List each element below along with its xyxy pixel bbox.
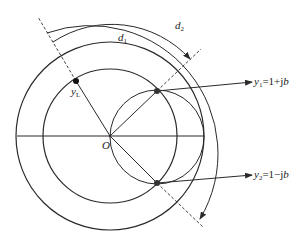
label-y2: y2=1−jb <box>254 169 289 182</box>
label-origin: O <box>102 140 110 151</box>
radius-to-y1 <box>110 91 157 136</box>
point-yL <box>73 78 79 84</box>
arrow-y1 <box>157 82 252 91</box>
unit-conductance-circle <box>110 90 204 184</box>
point-y1 <box>154 88 160 94</box>
radius-to-yL <box>76 81 110 136</box>
point-y2 <box>154 180 160 186</box>
label-d2: d2 <box>175 20 184 33</box>
arrow-y2 <box>157 175 252 183</box>
label-d1: d1 <box>118 32 127 45</box>
point-origin <box>109 135 111 137</box>
dashed-extension-y1 <box>157 49 201 91</box>
smith-chart-diagram <box>0 0 305 244</box>
radius-to-y2 <box>110 136 157 183</box>
dashed-extension-y2 <box>157 183 203 227</box>
arc-d2 <box>47 26 218 219</box>
label-y1: y1=1+jb <box>254 76 289 89</box>
label-yL: yL <box>71 86 80 99</box>
